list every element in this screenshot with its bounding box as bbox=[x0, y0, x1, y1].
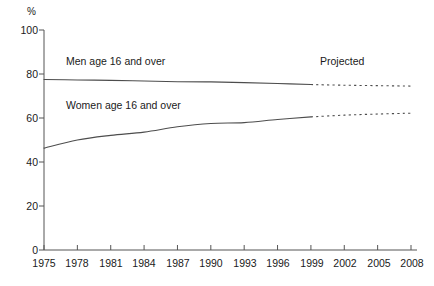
y-tick-label-60: 60 bbox=[12, 113, 38, 124]
x-tick-label-1981: 1981 bbox=[94, 258, 128, 269]
x-tick-label-2002: 2002 bbox=[328, 258, 362, 269]
series-line-actual bbox=[44, 117, 311, 148]
x-tick-label-1996: 1996 bbox=[261, 258, 295, 269]
y-tick-label-80: 80 bbox=[12, 69, 38, 80]
x-tick-label-2008: 2008 bbox=[395, 258, 429, 269]
y-tick-label-0: 0 bbox=[12, 245, 38, 256]
x-tick-label-1978: 1978 bbox=[60, 258, 94, 269]
y-axis-unit-label: % bbox=[27, 6, 36, 18]
y-tick-label-40: 40 bbox=[12, 157, 38, 168]
series-line-actual bbox=[44, 80, 311, 85]
projected-label: Projected bbox=[320, 55, 364, 67]
y-tick-label-100: 100 bbox=[12, 25, 38, 36]
labor-force-participation-chart: % 100 80 60 40 20 0 1975 1978 1981 1984 … bbox=[0, 0, 434, 286]
series-label-men: Men age 16 and over bbox=[66, 55, 165, 67]
x-tick-label-1993: 1993 bbox=[228, 258, 262, 269]
series-label-women: Women age 16 and over bbox=[66, 99, 181, 111]
series-line-projected bbox=[311, 113, 411, 117]
x-tick-label-1987: 1987 bbox=[161, 258, 195, 269]
x-tick-label-1990: 1990 bbox=[194, 258, 228, 269]
series-line-projected bbox=[311, 85, 411, 87]
chart-plot-area bbox=[0, 0, 434, 286]
x-tick-label-1984: 1984 bbox=[127, 258, 161, 269]
x-tick-label-1975: 1975 bbox=[27, 258, 61, 269]
x-tick-label-1999: 1999 bbox=[295, 258, 329, 269]
x-tick-label-2005: 2005 bbox=[362, 258, 396, 269]
y-tick-label-20: 20 bbox=[12, 201, 38, 212]
